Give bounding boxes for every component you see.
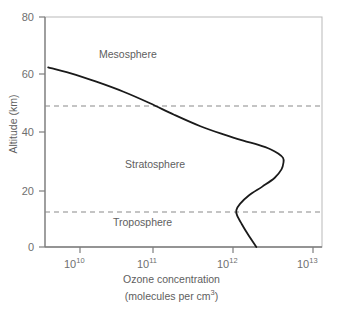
x-tick-mantissa-2: 10 [217,258,229,270]
x-axis-title-line1: Ozone concentration [0,272,343,286]
plot-canvas [0,0,343,310]
y-tick-label-0: 0 [6,241,34,253]
x-axis-title-line2: (molecules per cm3) [0,286,343,303]
ozone-altitude-chart: 0 20 40 60 80 1010 1011 1012 1013 Altitu… [0,0,343,310]
x-tick-exponent-1: 11 [149,256,157,265]
x-tick-mantissa-1: 10 [137,258,149,270]
region-label-mesosphere: Mesosphere [99,48,157,60]
y-axis-title: Altitude (km) [7,89,19,159]
x-tick-label-1e13: 1013 [297,256,318,270]
y-tick-label-20: 20 [6,185,34,197]
x-tick-mantissa-0: 10 [64,258,76,270]
x-tick-exponent-3: 13 [309,256,317,265]
x-tick-marks [80,247,313,253]
y-tick-marks [39,17,45,247]
x-axis-title-units-pre: (molecules per cm [125,290,211,302]
y-tick-label-60: 60 [6,68,34,80]
x-tick-exponent-2: 12 [229,256,237,265]
x-axis-title: Ozone concentration (molecules per cm3) [0,272,343,303]
y-tick-label-80: 80 [6,11,34,23]
x-tick-label-1e12: 1012 [217,256,238,270]
x-tick-mantissa-3: 10 [297,258,309,270]
x-tick-exponent-0: 10 [76,256,84,265]
region-label-troposphere: Troposphere [113,216,172,228]
x-tick-label-1e10: 1010 [64,256,85,270]
x-axis-title-units-post: ) [215,290,219,302]
x-tick-label-1e11: 1011 [137,256,157,270]
region-label-stratosphere: Stratosphere [125,158,185,170]
